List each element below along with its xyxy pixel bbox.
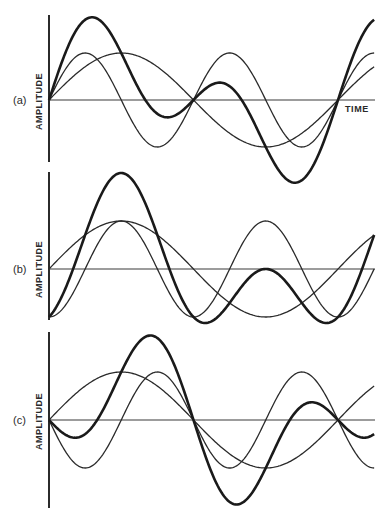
y-axis-title: AMPLITUDE (34, 73, 44, 130)
panel-label: (a) (13, 94, 26, 106)
panel-label: (b) (13, 263, 26, 275)
y-axis-title: AMPLITUDE (34, 241, 44, 298)
panel-a: (a) AMPLITUDE TIME (13, 15, 375, 183)
harmonic-phase-figure: (a) AMPLITUDE TIME (b) AMPLITUDE (c) AMP… (0, 0, 391, 520)
panel-label: (c) (13, 414, 26, 426)
sum-curve (49, 173, 374, 323)
y-axis-title: AMPLITUDE (34, 393, 44, 450)
panel-c: (c) AMPLITUDE (13, 332, 375, 508)
x-axis-title: TIME (345, 104, 369, 114)
panel-b: (b) AMPLITUDE (13, 172, 375, 323)
